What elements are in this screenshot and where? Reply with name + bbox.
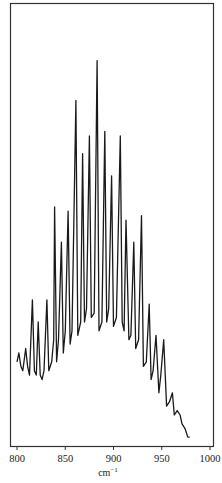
x-tick-label: 950 (154, 453, 170, 464)
x-tick-label: 800 (9, 453, 25, 464)
x-axis-title: cm−1 (98, 466, 118, 478)
x-tick-label: 850 (57, 453, 73, 464)
spectrum-chart: 8008509009501000 cm−1 (0, 0, 222, 483)
spectrum-trace (17, 61, 190, 438)
x-axis-tick-labels: 8008509009501000 (9, 453, 220, 464)
x-tick-label: 1000 (200, 453, 221, 464)
x-tick-label: 900 (106, 453, 122, 464)
